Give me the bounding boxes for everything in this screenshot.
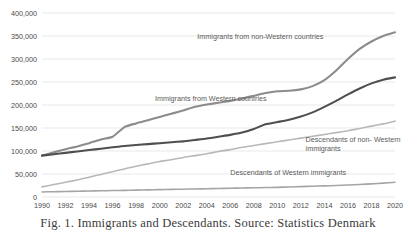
x-axis-tick-label: 2002 bbox=[175, 201, 191, 209]
x-axis-tick-label: 1996 bbox=[105, 201, 121, 209]
series-line bbox=[42, 182, 395, 192]
figure-container: 050,000100,000150,000200,000250,000300,0… bbox=[0, 0, 416, 231]
x-axis-tick-label: 2020 bbox=[387, 201, 403, 209]
y-axis-tick-label: 50,000 bbox=[15, 170, 37, 179]
x-axis-tick-label: 2016 bbox=[340, 201, 356, 209]
figure-caption-text: Fig. 1. Immigrants and Descendants. Sour… bbox=[0, 216, 416, 231]
x-axis-tick-labels: 1990199219941996199820002002200420062008… bbox=[34, 201, 403, 209]
series-label: Immigrants from Western countries bbox=[155, 94, 267, 103]
y-axis-tick-label: 100,000 bbox=[11, 147, 37, 156]
y-axis-tick-label: 400,000 bbox=[11, 9, 37, 18]
chart-area: 050,000100,000150,000200,000250,000300,0… bbox=[0, 0, 416, 208]
series-label: Descendants of non- Western bbox=[306, 135, 401, 144]
y-axis-tick-label: 250,000 bbox=[11, 78, 37, 87]
y-axis-tick-label: 300,000 bbox=[11, 55, 37, 64]
series-label: Immigrants from non-Western countries bbox=[197, 32, 323, 41]
x-axis-tick-label: 2006 bbox=[222, 201, 238, 209]
x-axis-tick-label: 1992 bbox=[58, 201, 74, 209]
x-axis-tick-label: 2010 bbox=[269, 201, 285, 209]
series-line bbox=[42, 77, 395, 155]
x-axis-tick-label: 2008 bbox=[246, 201, 262, 209]
x-axis-tick-label: 2018 bbox=[363, 201, 379, 209]
y-axis-tick-label: 150,000 bbox=[11, 124, 37, 133]
figure-caption: Fig. 1. Immigrants and Descendants. Sour… bbox=[0, 210, 416, 231]
line-chart: 050,000100,000150,000200,000250,000300,0… bbox=[0, 0, 416, 208]
x-axis-tick-label: 2004 bbox=[199, 201, 215, 209]
x-axis-tick-label: 2014 bbox=[316, 201, 332, 209]
y-axis-tick-label: 350,000 bbox=[11, 32, 37, 41]
x-axis-tick-label: 2012 bbox=[293, 201, 309, 209]
x-axis-tick-label: 1998 bbox=[128, 201, 144, 209]
x-axis-tick-label: 1994 bbox=[81, 201, 97, 209]
y-axis-tick-labels: 050,000100,000150,000200,000250,000300,0… bbox=[11, 9, 37, 202]
series-label: Descendants of Western immigrants bbox=[230, 168, 346, 177]
series-label: immigrants bbox=[306, 144, 342, 153]
x-axis-tick-label: 2000 bbox=[152, 201, 168, 209]
x-axis-tick-label: 1990 bbox=[34, 201, 50, 209]
y-axis-tick-label: 200,000 bbox=[11, 101, 37, 110]
